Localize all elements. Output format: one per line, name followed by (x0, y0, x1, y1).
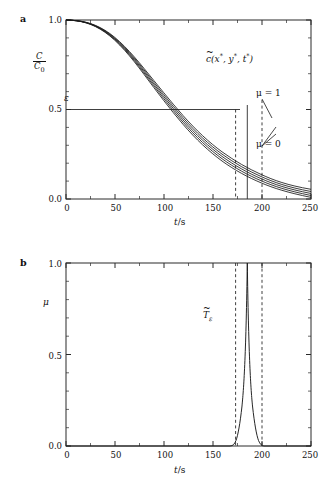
panel-b-yticks-major (66, 263, 311, 446)
panel-b-xticks-major (66, 263, 311, 446)
panel-b-yticks-minor (66, 281, 311, 427)
mu-pulse-curve (66, 263, 311, 446)
panel-b-xticks-minor (91, 263, 287, 446)
panel-b-plot (0, 0, 326, 494)
